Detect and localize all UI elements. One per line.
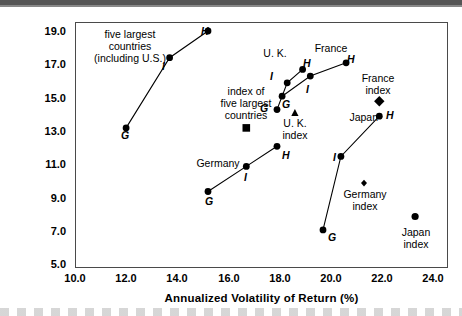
point-label-germany-H: H — [282, 149, 290, 161]
annotation-index-five-largest-line1: index of — [196, 85, 296, 97]
annotation-france: France — [303, 42, 359, 54]
point-label-france-H: H — [347, 53, 355, 65]
chart-figure: 19.0 17.0 15.0 13.0 11.0 9.0 7.0 5.0 10.… — [0, 0, 462, 316]
annotation-france-index-line1: France — [355, 72, 401, 84]
annotation-japan-index-line1: Japan — [390, 226, 442, 238]
scan-artifact-bar-secondary — [0, 5, 462, 7]
point-label-japan-H: H — [386, 109, 394, 121]
point-label-germany-G: G — [205, 195, 213, 207]
annotation-france-index-line2: index — [355, 84, 401, 96]
annotation-japan-index-line2: index — [390, 238, 442, 250]
x-tick-24: 24.0 — [407, 272, 459, 284]
x-axis-label: Annualized Volatility of Return (%) — [75, 292, 448, 304]
point-label-uk-I: I — [270, 70, 273, 82]
point-label-uk-H: H — [303, 57, 311, 69]
point-label-france-I: I — [306, 83, 309, 95]
annotation-france-index: France index — [355, 72, 401, 96]
annotation-index-five-largest-line2: five largest — [196, 97, 296, 109]
x-tick-14: 14.0 — [151, 272, 203, 284]
x-tick-12: 12.0 — [100, 272, 152, 284]
x-tick-20: 20.0 — [305, 272, 357, 284]
point-label-japan-I: I — [333, 151, 336, 163]
point-label-japan-G: G — [328, 231, 336, 243]
annotation-uk: U. K. — [251, 47, 299, 59]
point-label-five-largest-G: G — [121, 129, 129, 141]
annotation-five-largest-line1: five largest — [78, 28, 182, 40]
scan-artifact-bottom — [0, 308, 462, 316]
point-label-germany-I: I — [244, 171, 247, 183]
annotation-uk-index-line2: index — [272, 129, 318, 141]
annotation-japan: Japan — [334, 111, 378, 123]
y-tick-11: 11.0 — [20, 158, 66, 170]
annotation-uk-index: U. K. index — [272, 117, 318, 141]
annotation-five-largest: five largest countries (including U.S.) — [78, 28, 182, 64]
point-label-five-largest-H: H — [201, 25, 209, 37]
x-tick-16: 16.0 — [203, 272, 255, 284]
y-tick-9: 9.0 — [20, 192, 66, 204]
x-tick-22: 22.0 — [356, 272, 408, 284]
annotation-uk-index-line1: U. K. — [272, 117, 318, 129]
annotation-germany: Germany — [185, 157, 251, 169]
y-tick-13: 13.0 — [20, 125, 66, 137]
y-tick-5: 5.0 — [20, 258, 66, 270]
y-tick-7: 7.0 — [20, 225, 66, 237]
annotation-index-five-largest: index of five largest countries — [196, 85, 296, 121]
annotation-five-largest-line3: (including U.S.) — [78, 52, 182, 64]
annotation-germany-index-line2: index — [334, 200, 396, 212]
annotation-germany-index: Germany index — [334, 188, 396, 212]
y-tick-17: 17.0 — [20, 58, 66, 70]
x-tick-10: 10.0 — [49, 272, 101, 284]
annotation-japan-index: Japan index — [390, 226, 442, 250]
y-tick-19: 19.0 — [20, 25, 66, 37]
annotation-five-largest-line2: countries — [78, 40, 182, 52]
annotation-germany-index-line1: Germany — [334, 188, 396, 200]
y-tick-15: 15.0 — [20, 92, 66, 104]
x-tick-18: 18.0 — [254, 272, 306, 284]
